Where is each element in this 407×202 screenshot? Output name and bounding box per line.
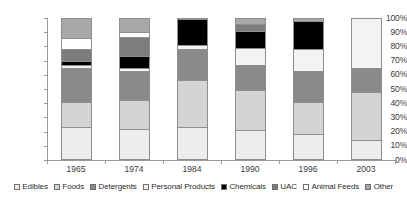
legend-item-label: Chemicals bbox=[229, 183, 265, 191]
bar-segment-foods bbox=[235, 90, 266, 130]
legend-item-other[interactable]: Other bbox=[365, 183, 393, 191]
bar-segment-other bbox=[61, 18, 92, 38]
x-axis-tick-label: 1990 bbox=[220, 165, 280, 174]
bar-segment-edibles bbox=[293, 134, 324, 160]
x-axis-tick-label: 1984 bbox=[162, 165, 222, 174]
legend-swatch-icon bbox=[365, 184, 371, 190]
bar-segment-foods bbox=[61, 102, 92, 128]
plot-area bbox=[47, 18, 395, 160]
legend-item-label: Personal Products bbox=[151, 183, 215, 191]
x-axis-tick-mark bbox=[395, 160, 396, 164]
bar-segment-uac bbox=[119, 37, 150, 57]
bar-segment-chemicals bbox=[119, 56, 150, 67]
bar-1990 bbox=[235, 18, 266, 160]
bar-1965 bbox=[61, 18, 92, 160]
bar-segment-detergents bbox=[293, 71, 324, 102]
legend-swatch-icon bbox=[54, 184, 60, 190]
x-axis-tick-mark bbox=[47, 160, 48, 164]
bar-segment-edibles bbox=[235, 130, 266, 160]
x-axis-line bbox=[47, 160, 397, 161]
legend-item-label: Other bbox=[374, 183, 394, 191]
legend-item-edibles[interactable]: Edibles bbox=[14, 183, 48, 191]
bar-segment-uac bbox=[235, 24, 266, 31]
legend-item-foods[interactable]: Foods bbox=[54, 183, 84, 191]
legend-item-label: UAC bbox=[280, 183, 297, 191]
bar-segment-edibles bbox=[177, 127, 208, 160]
bar-1984 bbox=[177, 18, 208, 160]
x-axis-tick-mark bbox=[105, 160, 106, 164]
bar-segment-chemicals bbox=[177, 19, 208, 45]
legend-item-label: Detergents bbox=[99, 183, 137, 191]
legend-swatch-icon bbox=[272, 184, 278, 190]
legend-item-label: Animal Feeds bbox=[311, 183, 359, 191]
legend-item-detergents[interactable]: Detergents bbox=[90, 183, 137, 191]
bar-segment-uac bbox=[61, 49, 92, 60]
x-axis-tick-label: 1996 bbox=[278, 165, 338, 174]
bar-segment-animal-feeds bbox=[61, 38, 92, 49]
x-axis-tick-label: 1974 bbox=[104, 165, 164, 174]
chart-legend: EdiblesFoodsDetergentsPersonal ProductsC… bbox=[0, 183, 407, 191]
legend-item-label: Edibles bbox=[22, 183, 48, 191]
bar-segment-detergents bbox=[177, 49, 208, 80]
bar-segment-chemicals bbox=[293, 21, 324, 49]
bar-segment-foods bbox=[119, 100, 150, 128]
bar-segment-detergents bbox=[351, 68, 382, 92]
bar-segment-chemicals bbox=[235, 31, 266, 48]
bar-segment-detergents bbox=[61, 68, 92, 102]
bar-segment-personal-products bbox=[235, 48, 266, 65]
bar-segment-edibles bbox=[351, 140, 382, 160]
bar-segment-foods bbox=[293, 102, 324, 135]
legend-item-uac[interactable]: UAC bbox=[272, 183, 297, 191]
x-axis-tick-mark bbox=[337, 160, 338, 164]
bar-segment-personal-products bbox=[351, 18, 382, 68]
x-axis-tick-mark bbox=[279, 160, 280, 164]
bar-segment-foods bbox=[177, 80, 208, 127]
bar-2003 bbox=[351, 18, 382, 160]
legend-item-label: Foods bbox=[62, 183, 84, 191]
stacked-bar-chart: 0%10%20%30%40%50%60%70%80%90%100% 196519… bbox=[0, 0, 407, 202]
bar-segment-edibles bbox=[61, 127, 92, 160]
bar-1996 bbox=[293, 18, 324, 160]
bar-segment-edibles bbox=[119, 129, 150, 160]
legend-swatch-icon bbox=[14, 184, 20, 190]
legend-item-chemicals[interactable]: Chemicals bbox=[221, 183, 266, 191]
x-axis-tick-label: 1965 bbox=[46, 165, 106, 174]
legend-item-personal-products[interactable]: Personal Products bbox=[143, 183, 215, 191]
x-axis-tick-label: 2003 bbox=[336, 165, 396, 174]
legend-swatch-icon bbox=[303, 184, 309, 190]
x-axis-tick-mark bbox=[221, 160, 222, 164]
bar-1974 bbox=[119, 18, 150, 160]
legend-swatch-icon bbox=[221, 184, 227, 190]
legend-item-animal-feeds[interactable]: Animal Feeds bbox=[303, 183, 359, 191]
x-axis-tick-mark bbox=[163, 160, 164, 164]
y-axis bbox=[0, 0, 47, 202]
bar-segment-detergents bbox=[235, 65, 266, 91]
bar-segment-foods bbox=[351, 92, 382, 140]
legend-swatch-icon bbox=[143, 184, 149, 190]
bar-segment-detergents bbox=[119, 71, 150, 101]
bar-segment-personal-products bbox=[293, 49, 324, 70]
legend-swatch-icon bbox=[90, 184, 96, 190]
bar-segment-other bbox=[119, 18, 150, 32]
